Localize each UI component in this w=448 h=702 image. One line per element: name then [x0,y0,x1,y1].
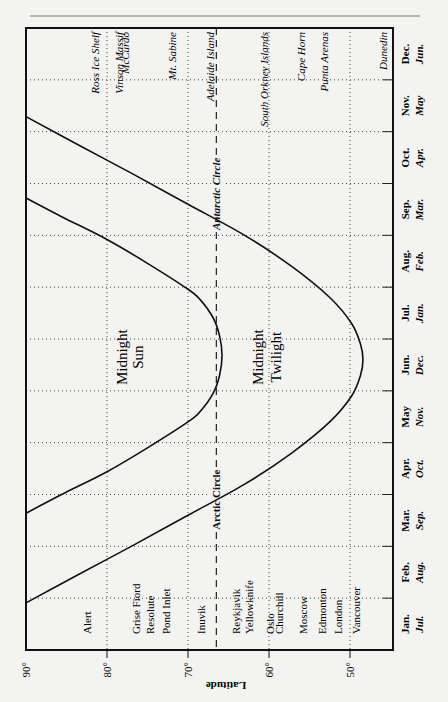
place-label-north: Edmonton [316,588,328,634]
place-label-north: Moscow [297,596,309,634]
place-label-south: Ross Ice Shelf [89,30,101,95]
month-label-north: Apr. [399,458,411,479]
place-label-north: Inuvik [195,605,207,634]
place-label-north: Resolute [144,595,156,634]
month-label-south: Feb. [413,251,425,272]
month-labels: Jan.Jul.Feb.Aug.Mar.Sep.Apr.Oct.MayNov.J… [399,43,425,634]
midnight-twilight-curve [26,117,363,603]
grid [26,28,393,650]
place-label-south: Cape Horn [295,32,307,82]
lat-tick-label: 70° [182,662,194,677]
place-label-north: Reykjavik [230,588,242,634]
place-label-south: McCurdo [119,32,131,75]
place-label-north: Churchill [273,592,285,634]
lat-tick-label: 90° [20,662,32,677]
place-label-north: London [332,599,344,634]
x-axis-title: Latitude [206,680,246,692]
month-label-south: Apr. [413,148,425,168]
place-label-south: Adelaide Island [204,32,216,103]
month-label-north: Jul. [399,304,411,322]
midnight-sun-label-line1: Midnight [114,328,130,385]
month-label-north: Sep. [399,199,411,219]
midnight-twilight-label-line1: Midnight [250,328,266,385]
place-label-north: Grise Fiord [130,583,142,634]
month-label-south: Dec. [413,355,425,376]
midnight-sun-label-line2: Sun [130,345,146,369]
month-label-north: Feb. [399,562,411,583]
month-label-south: Jun. [413,44,425,66]
lat-tick-label: 80° [101,662,113,677]
latitude-ticks: 90°80°70°60°50° [20,650,356,677]
month-label-north: May [399,406,411,428]
month-label-south: Oct. [413,459,425,478]
month-label-south: Sep. [413,511,425,530]
month-label-south: Jul. [413,615,425,633]
lat-tick-label: 50° [344,662,356,677]
place-label-north: Alert [81,611,93,634]
midnight-sun-chart: Arctic CircleAntarctic Circle AlertGrise… [0,0,448,702]
place-label-north: Yellowknife [243,580,255,634]
plot-frame [26,28,393,650]
place-label-south: Punta Arenas [318,32,330,93]
place-label-south: Dunedin [377,32,389,71]
month-label-north: Oct. [399,147,411,167]
place-label-south: South Orkney Islands [258,32,270,127]
midnight-twilight-label-line2: Twilight [268,331,284,382]
place-label-north: Pond Inlet [160,588,172,634]
month-label-south: Nov. [413,406,425,428]
month-label-south: Jan. [413,303,425,324]
curves [26,117,363,603]
month-label-north: Dec. [399,43,411,64]
month-label-south: Aug. [413,561,425,584]
month-label-south: May [413,96,425,117]
month-label-north: Aug. [399,250,411,273]
region-labels: MidnightSunMidnightTwilight [114,328,284,385]
month-label-north: Jan. [399,614,411,634]
place-label-south: Mt. Sabine [166,32,178,81]
lat-tick-label: 60° [263,662,275,677]
month-label-north: Mar. [399,509,411,532]
place-label-north: Vancouver [350,587,362,634]
month-label-south: Mar. [413,199,425,222]
month-label-north: Jun. [399,354,411,375]
month-label-north: Nov. [399,95,411,116]
